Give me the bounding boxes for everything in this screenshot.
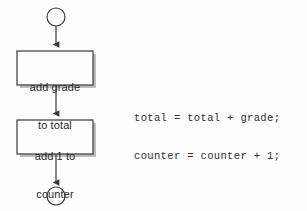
- diagram-canvas: add grade to total add 1 to counter tota…: [0, 0, 307, 211]
- process-box-2-label-line1: add 1 to: [17, 150, 93, 163]
- start-terminator-circle: [47, 8, 65, 26]
- code-snippet: total = total + grade; counter = counter…: [134, 87, 280, 187]
- process-box-2-label: add 1 to counter: [17, 125, 93, 211]
- process-box-2-label-line2: counter: [17, 188, 93, 201]
- code-line-2: counter = counter + 1;: [134, 150, 280, 163]
- process-box-1-label-line1: add grade: [17, 81, 93, 94]
- code-line-1: total = total + grade;: [134, 112, 280, 125]
